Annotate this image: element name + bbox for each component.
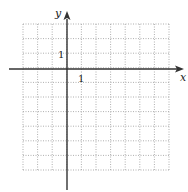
coordinate-plane: x y 1 1 [0,0,188,192]
y-axis-arrow-icon [64,11,71,20]
y-axis-label: y [54,7,62,20]
grid-lines [23,24,169,170]
x-axis-label: x [180,71,187,84]
y-unit-label: 1 [58,49,64,60]
x-unit-label: 1 [78,73,84,84]
